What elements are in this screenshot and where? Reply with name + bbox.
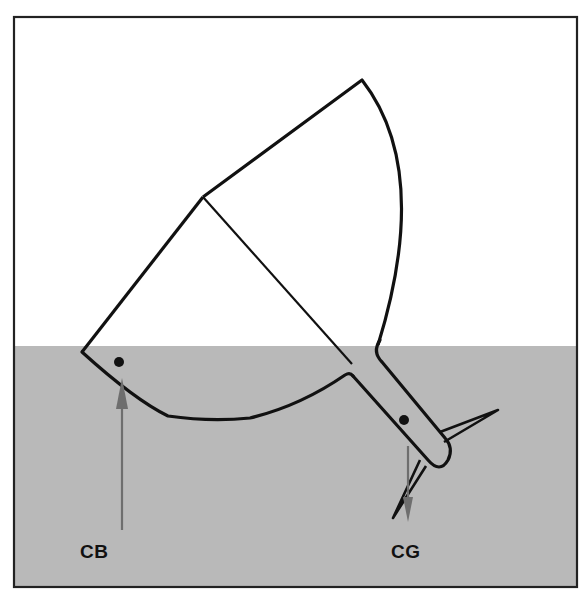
cb-point [114,357,124,367]
sailboat-stability-diagram [0,0,586,598]
cg-label: CG [391,541,421,563]
cg-point [399,415,409,425]
sky-area [14,17,577,346]
cb-label: CB [80,541,108,563]
